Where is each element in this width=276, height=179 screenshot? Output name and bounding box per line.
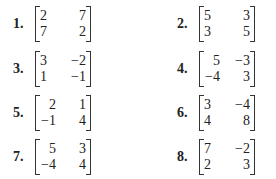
problem-number: 4. <box>177 61 199 77</box>
matrix-entry: −3 <box>234 53 250 69</box>
matrix: 3 −2 1 −1 <box>35 51 91 87</box>
problem-number: 2. <box>177 16 199 32</box>
matrix-entry: 3 <box>204 24 220 40</box>
matrix-entry: −2 <box>70 53 86 69</box>
matrix-entry: 4 <box>204 113 220 129</box>
matrix-entry: −4 <box>234 97 250 113</box>
problem-6: 6. 3 −4 4 8 <box>177 95 255 131</box>
matrix-entry: 7 <box>204 141 220 157</box>
problem-7: 7. 5 3 −4 4 <box>13 139 91 175</box>
problem-number: 5. <box>13 105 35 121</box>
matrix-entry: −4 <box>204 69 220 85</box>
matrix-entry: 3 <box>204 97 220 113</box>
matrix-entry: 1 <box>70 97 86 113</box>
matrix-entry: −2 <box>234 141 250 157</box>
matrix-entry: 2 <box>204 157 220 173</box>
matrix-entry: 2 <box>40 8 56 24</box>
matrix-entry: 5 <box>204 8 220 24</box>
matrix-entry: 7 <box>40 24 56 40</box>
matrix: 2 1 −1 4 <box>35 95 91 131</box>
problem-3: 3. 3 −2 1 −1 <box>13 51 91 87</box>
matrix-entry: 5 <box>40 141 56 157</box>
matrix-entry: 5 <box>234 24 250 40</box>
matrix-entry: −1 <box>70 69 86 85</box>
matrix: 3 −4 4 8 <box>199 95 255 131</box>
matrix: 5 3 −4 4 <box>35 139 91 175</box>
matrix-entry: 1 <box>40 69 56 85</box>
matrix-entry: 8 <box>234 113 250 129</box>
matrix-entry: 3 <box>234 157 250 173</box>
problem-2: 2. 5 3 3 5 <box>177 6 255 42</box>
problem-number: 1. <box>13 16 35 32</box>
matrix-entry: 2 <box>70 24 86 40</box>
matrix-entry: 7 <box>70 8 86 24</box>
matrix: 5 3 3 5 <box>199 6 255 42</box>
problem-number: 7. <box>13 149 35 165</box>
matrix-entry: 4 <box>70 113 86 129</box>
matrix: 5 −3 −4 3 <box>199 51 255 87</box>
matrix-entry: 2 <box>40 97 56 113</box>
matrix-entry: −1 <box>40 113 56 129</box>
problem-5: 5. 2 1 −1 4 <box>13 95 91 131</box>
matrix-entry: 3 <box>234 8 250 24</box>
matrix-entry: 5 <box>204 53 220 69</box>
problem-number: 8. <box>177 149 199 165</box>
problem-number: 6. <box>177 105 199 121</box>
problem-number: 3. <box>13 61 35 77</box>
matrix-entry: 3 <box>70 141 86 157</box>
matrix-entry: 3 <box>40 53 56 69</box>
problem-8: 8. 7 −2 2 3 <box>177 139 255 175</box>
matrix-entry: 4 <box>70 157 86 173</box>
matrix-entry: 3 <box>234 69 250 85</box>
problem-1: 1. 2 7 7 2 <box>13 6 91 42</box>
problem-4: 4. 5 −3 −4 3 <box>177 51 255 87</box>
matrix-entry: −4 <box>40 157 56 173</box>
matrix: 7 −2 2 3 <box>199 139 255 175</box>
matrix: 2 7 7 2 <box>35 6 91 42</box>
